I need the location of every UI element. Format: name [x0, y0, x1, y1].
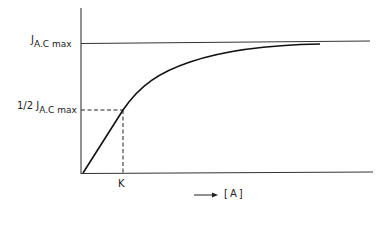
y-label-half-sub: A.C max — [39, 105, 77, 115]
x-label-k: K — [118, 178, 125, 189]
x-axis — [81, 172, 373, 174]
y-label-max-sub: A.C max — [34, 39, 72, 49]
saturation-curve — [83, 44, 320, 173]
x-axis-arrow-icon — [212, 193, 218, 198]
max-asymptote-line — [81, 41, 370, 44]
y-label-half: 1/2 JA.C max — [17, 100, 77, 111]
y-label-max: JA.C max — [31, 34, 72, 45]
x-axis-label: [A] — [224, 188, 245, 199]
